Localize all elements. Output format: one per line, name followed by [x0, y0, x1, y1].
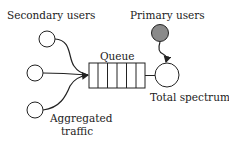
edge-secondary-3 — [43, 75, 88, 110]
aggregated-traffic-label-line1: Aggregated — [50, 113, 104, 124]
secondary-user-node-1 — [39, 31, 55, 47]
secondary-user-node-3 — [27, 102, 43, 118]
total-spectrum-node — [155, 63, 179, 87]
diagram-canvas — [0, 0, 229, 144]
aggregated-traffic-label-line2: traffic — [50, 126, 104, 137]
secondary-users-label: Secondary users — [7, 10, 95, 21]
edge-primary-to-spectrum — [159, 42, 167, 62]
edge-secondary-1 — [55, 39, 88, 75]
secondary-user-node-2 — [27, 65, 43, 81]
queue-box — [89, 63, 145, 88]
primary-users-label: Primary users — [130, 10, 205, 21]
primary-user-node — [152, 25, 169, 42]
queue-label: Queue — [100, 51, 135, 62]
total-spectrum-label: Total spectrum — [150, 92, 229, 103]
